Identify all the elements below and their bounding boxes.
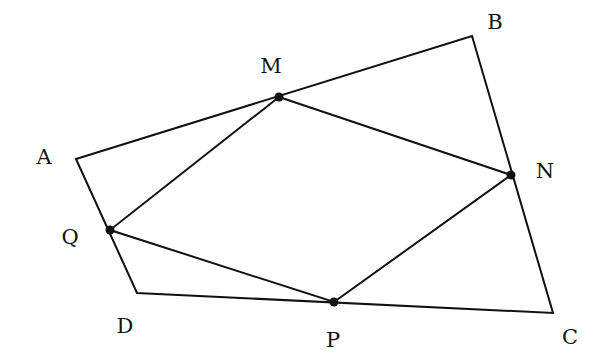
label-c: C: [562, 327, 578, 348]
label-n: N: [536, 161, 554, 182]
point-m-dot-icon: [275, 93, 284, 102]
point-n-dot-icon: [507, 171, 516, 180]
label-m: M: [260, 56, 282, 77]
label-q: Q: [61, 227, 78, 248]
point-q-dot-icon: [106, 226, 115, 235]
quadrilateral-abcd: [76, 36, 553, 313]
geometry-figure: A B C D M N P Q: [0, 0, 606, 361]
label-p: P: [326, 330, 340, 351]
midpoint-markers: [106, 93, 516, 307]
label-b: B: [487, 12, 502, 33]
quadrilateral-diagram: [0, 0, 606, 361]
label-d: D: [117, 316, 134, 337]
point-p-dot-icon: [330, 298, 339, 307]
label-a: A: [36, 147, 51, 168]
quadrilateral-mnpq: [110, 97, 511, 302]
